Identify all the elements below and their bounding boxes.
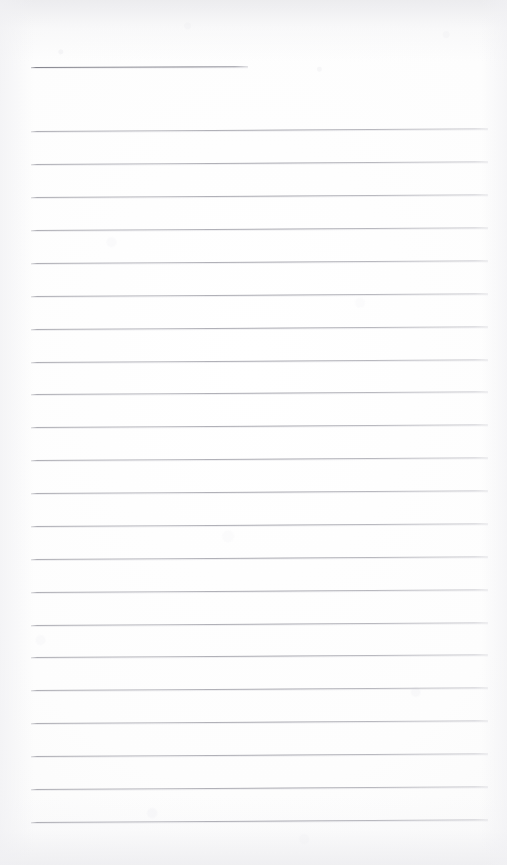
page-edge-shade-left — [0, 0, 34, 865]
page-edge-shade-top — [0, 0, 507, 62]
scanned-page — [0, 0, 507, 865]
page-edge-shade-bottom — [0, 795, 507, 865]
title-rule — [31, 66, 248, 68]
